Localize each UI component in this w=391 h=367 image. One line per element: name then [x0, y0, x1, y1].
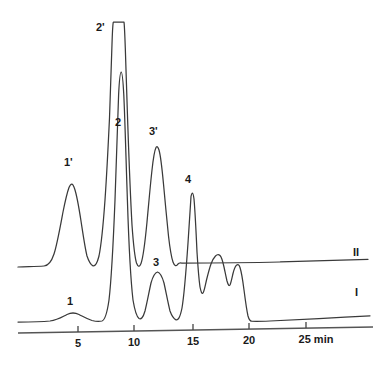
axis-tick-label-20: 20: [243, 335, 255, 346]
axis-tick-label-5: 5: [75, 338, 81, 349]
series-label-II: II: [353, 247, 359, 258]
peak-label-4: 4: [185, 174, 191, 185]
peak-label-1-prime: 1': [64, 157, 73, 168]
chromatogram-figure: 1' 2' 2 3' 4 3 1 II I 5 10 15 20 25 min: [0, 0, 391, 367]
peak-label-3-prime: 3': [149, 126, 158, 137]
x-axis-group: [18, 322, 373, 333]
axis-tick-label-10: 10: [128, 337, 140, 348]
chromatogram-canvas: [0, 0, 391, 367]
trace-I-curve: [18, 72, 370, 322]
peak-label-3: 3: [153, 257, 159, 268]
series-label-I: I: [355, 287, 358, 298]
peak-label-2: 2: [115, 117, 121, 128]
axis-tick-label-25-min: 25 min: [299, 334, 334, 345]
trace-II-curve: [18, 22, 368, 267]
axis-tick-label-15: 15: [187, 336, 199, 347]
peak-label-2-prime: 2': [96, 22, 105, 33]
peak-label-1: 1: [67, 296, 73, 307]
